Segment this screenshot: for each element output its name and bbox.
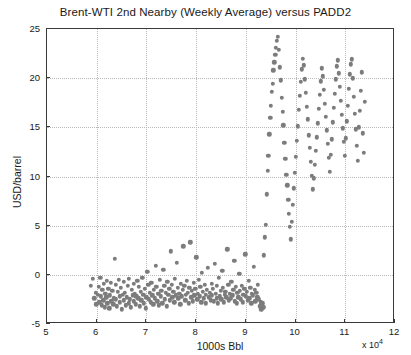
data-point [353,111,357,115]
data-point [314,149,318,153]
data-point [200,271,204,275]
data-point [209,281,213,285]
data-point [321,74,325,78]
data-point [264,222,268,226]
data-point [296,124,300,128]
data-point [162,283,166,287]
scatter-chart-figure: Brent-WTI 2nd Nearby (Weekly Average) ve… [0,0,411,355]
data-point [107,306,111,310]
data-point [204,301,208,305]
data-point [271,68,275,72]
x-tick-label: 7 [143,326,148,337]
y-tick-mark [46,126,50,127]
data-point [325,128,329,132]
data-point [254,290,258,294]
x-axis-title: 1000s Bbl [46,340,394,352]
data-point [142,301,146,305]
data-point [220,269,224,273]
data-point [341,126,345,130]
data-point [265,192,269,196]
data-point [334,77,338,81]
data-point [274,39,278,43]
data-point [326,142,330,146]
data-point [199,300,203,304]
multiplier-exponent: 4 [379,338,383,345]
data-point [211,286,215,290]
data-point [127,277,131,281]
data-point [241,300,245,304]
data-point [332,105,336,109]
data-point [330,137,334,141]
data-point [286,198,290,202]
data-point [91,277,95,281]
data-point [346,103,350,107]
y-tick-label: 0 [14,268,40,279]
data-point [304,91,308,95]
data-point [356,159,360,163]
data-point [225,247,229,251]
data-point [361,151,365,155]
data-point [135,279,139,283]
data-point [298,94,302,98]
data-point [243,252,247,256]
data-point [217,276,221,280]
data-point [123,290,127,294]
data-point [115,304,119,308]
data-point [154,284,158,288]
x-tick-label: 11 [339,326,349,337]
x-tick-label: 5 [43,326,48,337]
data-point [261,305,265,309]
y-tick-label: 10 [14,170,40,181]
data-point [293,170,297,174]
data-point [302,63,306,67]
data-point [262,253,266,257]
data-point [176,285,180,289]
data-point [98,276,102,280]
data-point [191,280,195,284]
data-point [119,285,123,289]
data-point [266,154,270,158]
data-point [350,57,354,61]
data-point [158,278,162,282]
data-point [287,212,291,216]
data-point [311,187,315,191]
data-point [317,106,321,110]
data-point [288,224,292,228]
data-point [115,289,119,293]
data-point [272,60,276,64]
data-point [112,257,116,261]
data-point [235,301,239,305]
x-tick-mark [195,319,196,323]
data-point [359,70,363,74]
data-point [343,154,347,158]
data-point [212,262,216,266]
data-point [270,90,274,94]
y-tick-label: 5 [14,219,40,230]
data-point [313,162,317,166]
data-point [290,220,294,224]
data-point [151,302,155,306]
data-point [342,140,346,144]
data-point [263,235,267,239]
data-point [222,300,226,304]
data-point [230,293,234,297]
data-point [173,277,177,281]
data-point [303,77,307,81]
data-point [280,109,284,113]
data-point [335,64,339,68]
data-point [291,203,295,207]
data-point [289,237,293,241]
data-point [305,104,309,108]
data-point [333,92,337,96]
data-point [301,56,305,60]
data-point [145,270,149,274]
data-point [285,183,289,187]
x-tick-mark [394,319,395,323]
data-point [306,117,310,121]
data-point [351,76,355,80]
data-point [268,115,272,119]
data-point [344,136,348,140]
data-point [278,78,282,82]
data-point [273,52,277,56]
y-tick-label: 15 [14,121,40,132]
